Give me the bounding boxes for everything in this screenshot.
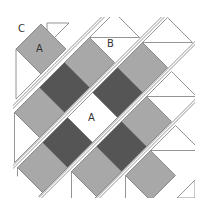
quilt-assembly-diagram: C B A A [0,0,200,209]
label-a-top: A [36,43,43,54]
label-b: B [107,38,114,49]
label-c: C [18,23,25,34]
label-a-center: A [88,112,95,123]
corner-triangle [177,180,195,198]
